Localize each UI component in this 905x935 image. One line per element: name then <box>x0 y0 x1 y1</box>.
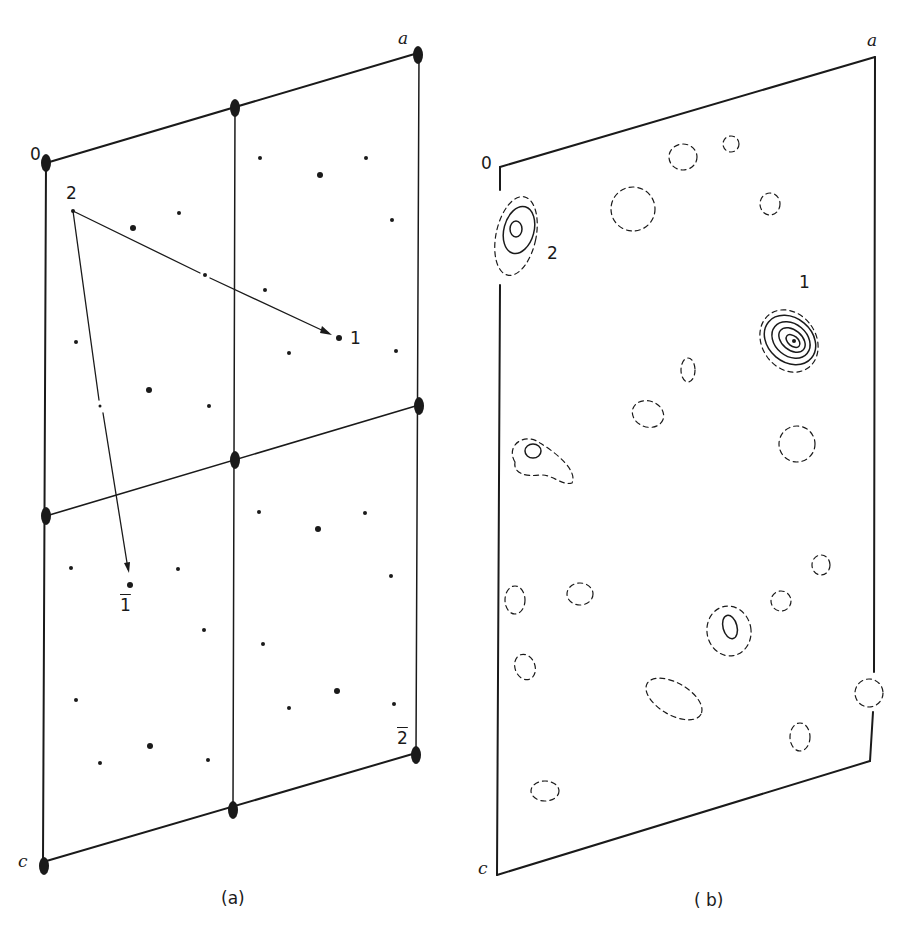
panel-a-peak-1-label: 1 <box>350 330 361 347</box>
diagram-canvas <box>0 0 905 935</box>
panel-b-a-axis-label: a <box>867 32 877 49</box>
panel-b-c-axis-label: c <box>478 860 488 877</box>
panel-a-peak-2-label: 2 <box>66 185 77 202</box>
panel-a-peak-1bar-label: 1 <box>120 597 131 614</box>
panel-a-c-axis-label: c <box>18 853 28 870</box>
panel-a-a-axis-label: a <box>398 30 408 47</box>
panel-b-peak-1-label: 1 <box>799 274 810 291</box>
panel-b-caption: ( b) <box>694 890 723 910</box>
panel-a-peak-2bar-label: 2 <box>397 730 408 747</box>
panel-b-outline <box>497 57 875 875</box>
panel-a-caption: (a) <box>221 888 245 908</box>
panel-b-peak-2-label: 2 <box>547 245 558 262</box>
panel-a-vectors <box>73 211 332 573</box>
panel-a-nodes <box>39 46 424 875</box>
panel-a-origin-label: 0 <box>30 146 41 163</box>
peak-1-center <box>792 339 796 343</box>
panel-b-origin-label: 0 <box>481 155 492 172</box>
panel-b-dashed-contours <box>488 136 883 801</box>
